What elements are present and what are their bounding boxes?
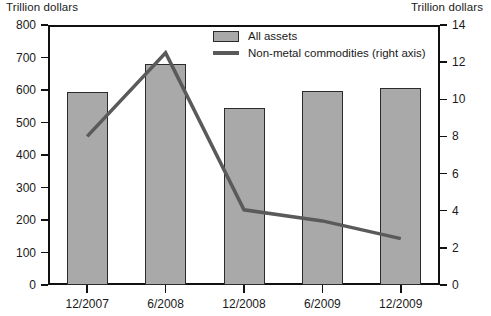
right-tick-mark: [440, 210, 447, 212]
line-series-non-metal-commodities: [48, 25, 440, 285]
right-tick-label: 10: [452, 93, 465, 105]
right-tick-label: 0: [452, 279, 459, 291]
right-tick-mark: [440, 247, 447, 249]
line-path: [87, 53, 401, 239]
left-tick-mark: [41, 252, 48, 254]
line-swatch-icon: [213, 51, 239, 55]
right-tick-mark: [440, 99, 447, 101]
left-tick-label: 400: [2, 149, 36, 161]
x-tick-mark: [86, 285, 88, 293]
left-tick-mark: [41, 122, 48, 124]
left-tick-mark: [41, 154, 48, 156]
legend-item-all-assets: All assets: [213, 28, 426, 44]
right-tick-mark: [440, 284, 447, 286]
chart-legend: All assets Non-metal commodities (right …: [213, 28, 426, 62]
right-tick-label: 14: [452, 19, 465, 31]
left-axis-caption: Trillion dollars: [6, 1, 78, 13]
right-tick-mark: [440, 61, 447, 63]
right-tick-label: 6: [452, 168, 459, 180]
x-tick-label: 12/2007: [47, 297, 127, 311]
legend-item-non-metal-commodities: Non-metal commodities (right axis): [213, 45, 426, 61]
left-tick-mark: [41, 219, 48, 221]
right-tick-label: 8: [452, 130, 459, 142]
x-tick-mark: [243, 285, 245, 293]
left-tick-mark: [41, 24, 48, 26]
x-tick-label: 12/2008: [204, 297, 284, 311]
x-tick-label: 12/2009: [361, 297, 441, 311]
left-tick-mark: [41, 284, 48, 286]
left-tick-mark: [41, 187, 48, 189]
right-tick-label: 12: [452, 56, 465, 68]
left-tick-label: 700: [2, 52, 36, 64]
left-tick-label: 0: [2, 279, 36, 291]
x-tick-mark: [165, 285, 167, 293]
legend-label-non-metal-commodities: Non-metal commodities (right axis): [248, 47, 426, 59]
x-tick-mark: [322, 285, 324, 293]
left-tick-mark: [41, 57, 48, 59]
left-tick-label: 600: [2, 84, 36, 96]
left-tick-label: 500: [2, 117, 36, 129]
left-tick-mark: [41, 89, 48, 91]
right-tick-label: 4: [452, 205, 459, 217]
right-tick-mark: [440, 173, 447, 175]
left-tick-label: 100: [2, 247, 36, 259]
right-axis-caption: Trillion dollars: [411, 1, 483, 13]
legend-label-all-assets: All assets: [248, 30, 297, 42]
chart-figure: Trillion dollars Trillion dollars 010020…: [0, 0, 491, 316]
x-tick-mark: [400, 285, 402, 293]
left-tick-label: 200: [2, 214, 36, 226]
left-tick-label: 300: [2, 182, 36, 194]
plot-area: [48, 25, 440, 285]
x-tick-label: 6/2009: [282, 297, 362, 311]
right-tick-mark: [440, 24, 447, 26]
right-tick-mark: [440, 136, 447, 138]
x-tick-label: 6/2008: [126, 297, 206, 311]
bar-swatch-icon: [213, 31, 239, 42]
left-tick-label: 800: [2, 19, 36, 31]
right-tick-label: 2: [452, 242, 459, 254]
